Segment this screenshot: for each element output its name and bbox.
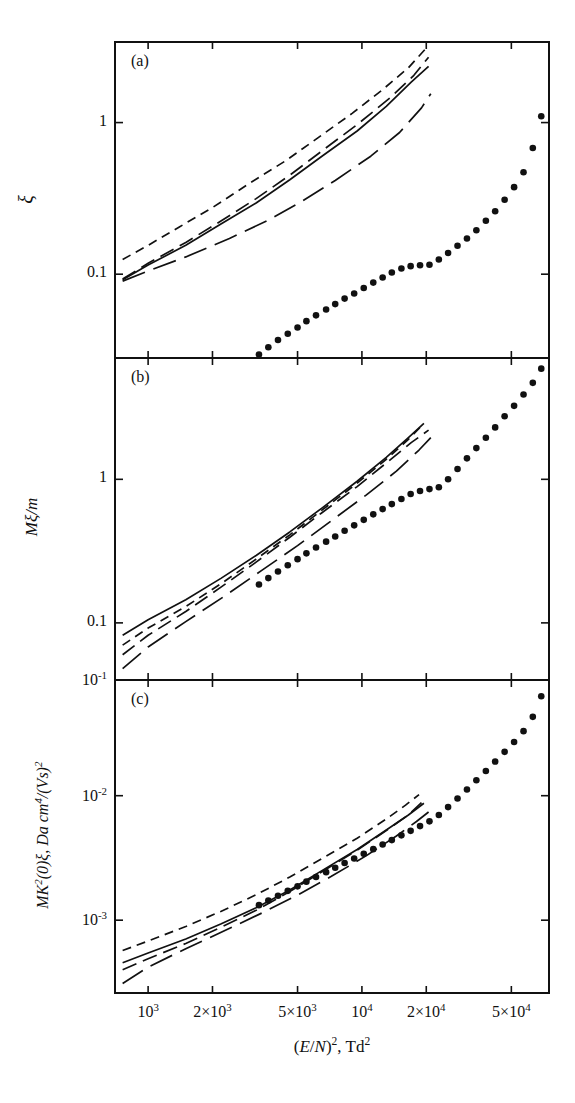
panel-c-tag: (c) (131, 690, 149, 708)
panel-c-plot (0, 0, 575, 1103)
x-tick-label-1: 2×103 (193, 1001, 231, 1021)
panel-b-ytick-2: 10-1 (82, 669, 107, 689)
panel-a-plot (0, 0, 575, 1103)
panel-b-plot (0, 0, 575, 1103)
figure-root: ξ (a) Mξ/m (b) MK2(0)ξ, Da cm4/(Vs)2 (c)… (0, 0, 575, 1103)
panel-a-ytick-0: 1 (99, 112, 107, 130)
x-tick-label-2: 5×103 (278, 1001, 316, 1021)
panel-b-tag: (b) (131, 368, 150, 386)
x-axis-label: (E/N)2, Td2 (294, 1035, 370, 1057)
panel-c-ytick-1: 10-3 (82, 909, 107, 929)
panel-b-y-axis-label: Mξ/m (22, 397, 42, 637)
panel-a-ytick-1: 0.1 (87, 263, 107, 281)
panel-c-ytick-0: 10-2 (82, 785, 107, 805)
x-tick-label-4: 2×104 (407, 1001, 445, 1021)
x-tick-label-5: 5×104 (492, 1001, 530, 1021)
panel-a-y-axis-label: ξ (15, 80, 38, 320)
panel-a-tag: (a) (131, 52, 149, 70)
x-tick-label-3: 104 (351, 1001, 372, 1021)
x-tick-label-0: 103 (137, 1001, 158, 1021)
panel-b-ytick-0: 1 (99, 468, 107, 486)
panel-b-ytick-1: 0.1 (87, 612, 107, 630)
panel-c-y-axis-label: MK2(0)ξ, Da cm4/(Vs)2 (32, 715, 52, 955)
